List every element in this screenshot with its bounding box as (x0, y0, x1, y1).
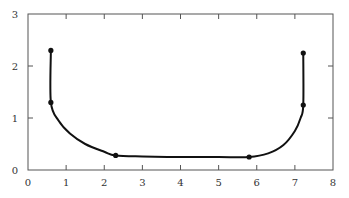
y-tick-label: 2 (12, 61, 18, 72)
data-point-marker (301, 102, 306, 107)
y-tick-label: 3 (12, 9, 18, 20)
data-point-marker (48, 100, 53, 105)
axis-ticks: 0123456780123 (12, 9, 337, 188)
x-tick-label: 8 (330, 177, 336, 188)
chart-svg: 0123456780123 (0, 0, 349, 198)
x-tick-label: 7 (292, 177, 298, 188)
data-point-marker (113, 153, 118, 158)
y-tick-label: 0 (12, 165, 18, 176)
chart-container: 0123456780123 (0, 0, 349, 198)
data-series (48, 48, 306, 160)
x-tick-label: 4 (177, 177, 183, 188)
x-tick-label: 1 (63, 177, 69, 188)
data-point-marker (247, 154, 252, 159)
series-line (50, 50, 303, 157)
x-tick-label: 0 (25, 177, 31, 188)
x-tick-label: 3 (139, 177, 145, 188)
x-tick-label: 6 (254, 177, 260, 188)
data-point-marker (301, 50, 306, 55)
y-tick-label: 1 (12, 113, 18, 124)
plot-frame (28, 14, 333, 170)
plot-border (28, 14, 333, 170)
data-point-marker (48, 48, 53, 53)
x-tick-label: 2 (101, 177, 107, 188)
x-tick-label: 5 (215, 177, 221, 188)
